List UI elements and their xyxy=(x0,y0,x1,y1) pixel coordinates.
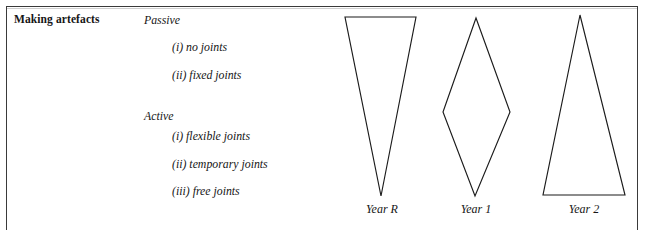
page-title: Making artefacts xyxy=(14,13,100,25)
list-item: (ii) temporary joints xyxy=(172,157,268,172)
figure-border xyxy=(6,6,638,230)
list-item: (ii) fixed joints xyxy=(172,68,241,83)
group-label-passive: Passive xyxy=(144,13,180,28)
shape-label-year-r: Year R xyxy=(340,202,424,217)
list-item: (i) flexible joints xyxy=(172,129,250,144)
shape-label-year-2: Year 2 xyxy=(542,202,626,217)
figure-panel: Making artefacts Passive (i) no joints (… xyxy=(0,0,648,230)
group-label-active: Active xyxy=(144,109,173,124)
list-item: (i) no joints xyxy=(172,40,227,55)
list-item: (iii) free joints xyxy=(172,184,240,199)
shape-label-year-1: Year 1 xyxy=(434,202,518,217)
figure-border-top-hairline xyxy=(7,8,637,9)
